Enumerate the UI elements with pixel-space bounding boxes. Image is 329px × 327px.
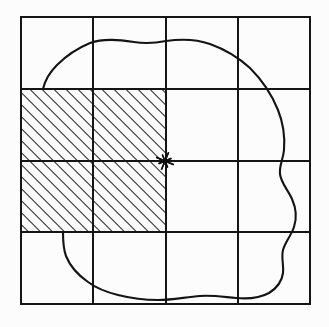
diagram-canvas: Grid with shaded quadrant and irregular …	[0, 0, 329, 327]
grid-region-diagram: Grid with shaded quadrant and irregular …	[0, 0, 329, 327]
